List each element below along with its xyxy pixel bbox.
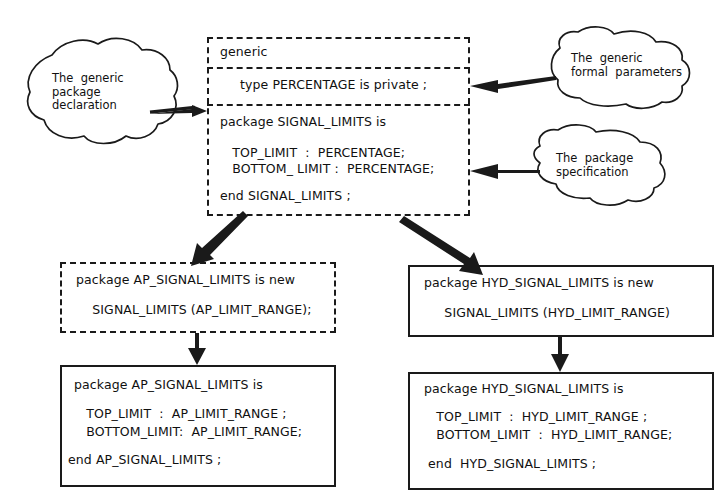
diagram-canvas: generic type PERCENTAGE is private ; pac…	[0, 0, 728, 498]
ap-result-line-1: package AP_SIGNAL_LIMITS is	[74, 377, 263, 392]
arrow-declaration-to-box	[150, 105, 207, 117]
hyd-instantiation-line-1: package HYD_SIGNAL_LIMITS is new	[424, 275, 654, 290]
arrow-generic-to-ap-instantiation	[191, 211, 248, 266]
generic-formal-parameters-label: The genericformal parameters	[571, 52, 682, 79]
generic-formal-parameter-line: type PERCENTAGE is private ;	[240, 77, 427, 92]
arrow-hyd-instantiation-to-result	[551, 337, 569, 372]
generic-box-divider-1	[207, 67, 470, 69]
hyd-result-line-3: BOTTOM_LIMIT : HYD_LIMIT_RANGE;	[424, 427, 672, 442]
package-spec-line-1: package SIGNAL_LIMITS is	[220, 114, 386, 129]
hyd-result-line-1: package HYD_SIGNAL_LIMITS is	[424, 381, 624, 396]
ap-instantiation-line-1: package AP_SIGNAL_LIMITS is new	[76, 272, 295, 287]
package-spec-line-2: TOP_LIMIT : PERCENTAGE;	[220, 145, 405, 160]
arrow-formal-params-to-box	[470, 76, 556, 93]
arrow-spec-to-box	[470, 164, 540, 179]
hyd-result-line-2: TOP_LIMIT : HYD_LIMIT_RANGE ;	[424, 409, 647, 424]
hyd-result-line-4: end HYD_SIGNAL_LIMITS ;	[424, 456, 596, 471]
ap-result-line-2: TOP_LIMIT : AP_LIMIT_RANGE ;	[74, 406, 287, 421]
generic-box-divider-2	[207, 104, 470, 106]
ap-result-line-3: BOTTOM_LIMIT: AP_LIMIT_RANGE;	[74, 424, 302, 439]
hyd-instantiation-line-2: SIGNAL_LIMITS (HYD_LIMIT_RANGE)	[424, 305, 670, 320]
arrow-ap-instantiation-to-result	[188, 333, 206, 365]
package-spec-line-3: BOTTOM_ LIMIT : PERCENTAGE;	[220, 161, 434, 176]
generic-package-declaration-label: The genericpackagedeclaration	[52, 72, 124, 113]
package-spec-line-4: end SIGNAL_LIMITS ;	[220, 188, 351, 203]
ap-instantiation-line-2: SIGNAL_LIMITS (AP_LIMIT_RANGE);	[76, 302, 311, 317]
ap-result-line-4: end AP_SIGNAL_LIMITS ;	[68, 452, 221, 467]
generic-keyword-line: generic	[220, 44, 267, 59]
package-specification-label: The packagespecification	[556, 152, 633, 179]
